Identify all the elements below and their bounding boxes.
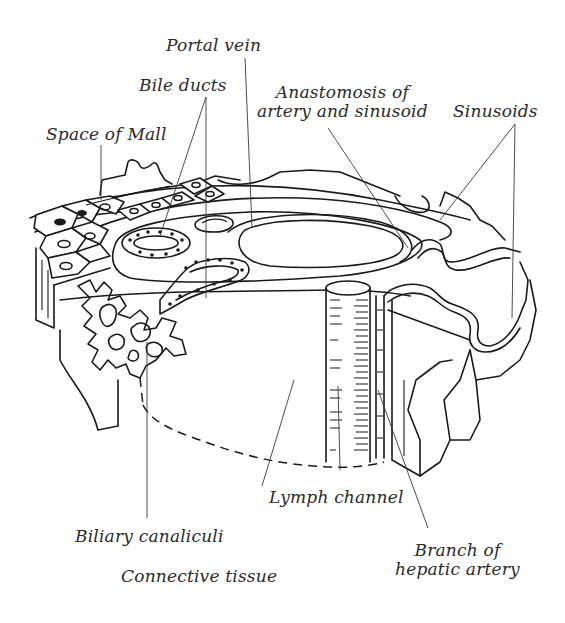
portal-canal-diagram: Portal vein Bile ducts Space of Mall Ana… bbox=[0, 0, 565, 623]
label-sinusoids: Sinusoids bbox=[453, 102, 538, 121]
label-space-of-mall: Space of Mall bbox=[46, 125, 167, 144]
portal-vein-lumen bbox=[239, 220, 403, 267]
label-anastomosis: Anastomosis of artery and sinusoid bbox=[257, 83, 428, 121]
biliary-canaliculi-network bbox=[78, 280, 186, 405]
label-branch-line1: Branch of bbox=[395, 541, 520, 560]
bile-ducts bbox=[122, 228, 249, 314]
label-portal-vein: Portal vein bbox=[166, 36, 261, 55]
label-biliary-canaliculi: Biliary canaliculi bbox=[75, 527, 224, 546]
hepatic-artery-branch bbox=[376, 296, 384, 458]
label-anastomosis-line1: Anastomosis of bbox=[257, 83, 428, 102]
label-connective-tissue: Connective tissue bbox=[121, 567, 277, 586]
lymph-channel bbox=[326, 281, 370, 462]
label-branch-line2: hepatic artery bbox=[395, 560, 520, 579]
hepatic-artery-lumen bbox=[195, 216, 233, 232]
label-anastomosis-line2: artery and sinusoid bbox=[257, 102, 428, 121]
label-lymph-channel: Lymph channel bbox=[269, 488, 404, 507]
label-branch-hepatic-artery: Branch of hepatic artery bbox=[395, 541, 520, 579]
label-bile-ducts: Bile ducts bbox=[139, 76, 227, 95]
